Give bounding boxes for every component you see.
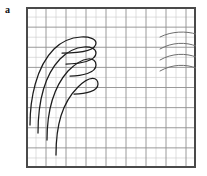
curve-arc-2 bbox=[160, 43, 196, 49]
plot-area bbox=[26, 7, 196, 168]
curve-hairpin-2 bbox=[38, 47, 96, 133]
right-arc-curves bbox=[160, 32, 196, 71]
figure-panel: a bbox=[0, 0, 207, 176]
curve-arc-1 bbox=[160, 32, 196, 37]
curve-arc-4 bbox=[160, 65, 196, 71]
plot-canvas bbox=[26, 7, 196, 168]
grid-major bbox=[27, 8, 195, 167]
curve-hairpin-4 bbox=[56, 78, 98, 155]
left-hairpin-curves bbox=[30, 37, 98, 155]
panel-label: a bbox=[5, 4, 10, 16]
